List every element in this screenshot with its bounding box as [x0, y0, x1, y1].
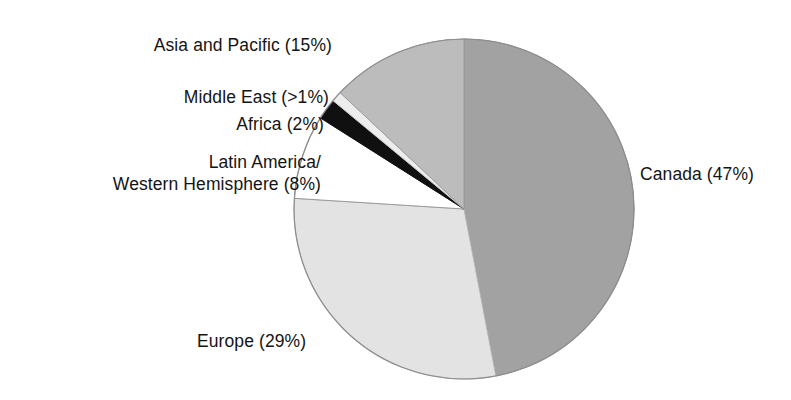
- pie-label-canada: Canada (47%): [640, 164, 754, 186]
- pie-chart-figure: Asia and Pacific (15%) Middle East (>1%)…: [0, 0, 791, 400]
- pie-slice-canada: [464, 39, 634, 376]
- pie-label-asia-pacific-text: Asia and Pacific (15%): [154, 35, 332, 57]
- pie-label-middle-east: Middle East (>1%): [184, 87, 329, 109]
- pie-slice-europe: [294, 198, 496, 379]
- pie-label-europe-text: Europe (29%): [197, 331, 306, 353]
- pie-label-latin-america-line2: Western Hemisphere (8%): [113, 174, 321, 196]
- pie-label-latin-america: Latin America/ Western Hemisphere (8%): [113, 152, 321, 196]
- pie-chart-graphic: [0, 0, 791, 400]
- pie-label-middle-east-text: Middle East (>1%): [184, 87, 329, 109]
- pie-slice-group: [294, 39, 634, 379]
- pie-label-latin-america-line1: Latin America/: [113, 152, 321, 174]
- pie-label-africa: Africa (2%): [236, 114, 324, 136]
- pie-label-africa-text: Africa (2%): [236, 114, 324, 136]
- pie-label-canada-text: Canada (47%): [640, 164, 754, 186]
- pie-label-asia-pacific: Asia and Pacific (15%): [154, 35, 332, 57]
- pie-label-europe: Europe (29%): [197, 331, 306, 353]
